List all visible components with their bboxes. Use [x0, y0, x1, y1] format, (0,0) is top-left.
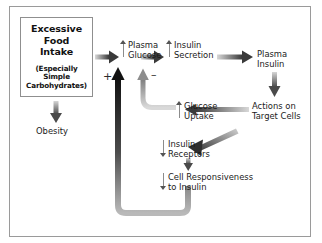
- intake-title-line2: Food: [44, 35, 70, 47]
- figure-canvas: Excessive Food Intake (Especially Simple…: [0, 0, 322, 243]
- node-glucose-uptake: Glucose Uptake: [176, 101, 217, 121]
- insulin-receptors-line2: Receptors: [168, 149, 210, 159]
- insulin-receptors-line1: Insulin: [168, 139, 210, 149]
- actions-line1: Actions on: [252, 101, 301, 111]
- down-arrow-icon: [160, 172, 167, 190]
- plasma-insulin-line2: Insulin: [257, 59, 287, 69]
- node-plasma-glucose-text: Plasma Glucose: [128, 40, 161, 60]
- node-plasma-glucose: Plasma Glucose: [120, 40, 161, 60]
- node-insulin-secretion: Insulin Secretion: [166, 40, 214, 60]
- edge-insulin-receptors-to-cell-responsiveness: [184, 158, 194, 171]
- plasma-glucose-line1: Plasma: [128, 40, 161, 50]
- insulin-secretion-line2: Secretion: [174, 50, 214, 60]
- cell-responsiveness-line2: to Insulin: [168, 182, 253, 192]
- up-arrow-icon: [120, 40, 127, 58]
- node-actions-on-target-cells: Actions on Target Cells: [252, 101, 301, 121]
- node-insulin-secretion-text: Insulin Secretion: [174, 40, 214, 60]
- node-insulin-receptors-text: Insulin Receptors: [168, 139, 210, 159]
- down-arrow-icon: [160, 139, 167, 157]
- up-arrow-icon: [166, 40, 173, 58]
- node-plasma-insulin: Plasma Insulin: [257, 49, 287, 69]
- actions-line2: Target Cells: [252, 111, 301, 121]
- edge-intake-to-plasma-glucose: [95, 51, 119, 64]
- node-glucose-uptake-text: Glucose Uptake: [184, 101, 217, 121]
- glucose-uptake-line2: Uptake: [184, 111, 217, 121]
- edge-glucose-uptake-to-plasma-glucose: [137, 69, 176, 108]
- glucose-uptake-line1: Glucose: [184, 101, 217, 111]
- node-cell-responsiveness-to-insulin: Cell Responsiveness to Insulin: [160, 172, 253, 192]
- intake-title-line1: Excessive: [31, 23, 82, 35]
- insulin-secretion-line1: Insulin: [174, 40, 214, 50]
- minus-sign: –: [151, 69, 157, 80]
- node-insulin-receptors: Insulin Receptors: [160, 139, 210, 159]
- edge-insulin-secretion-to-plasma-insulin: [217, 51, 253, 64]
- plasma-glucose-line2: Glucose: [128, 50, 161, 60]
- plus-sign: +: [103, 71, 112, 82]
- edge-plasma-insulin-to-actions: [269, 72, 281, 97]
- node-cell-responsiveness-text: Cell Responsiveness to Insulin: [168, 172, 253, 192]
- node-obesity-label: Obesity: [36, 126, 68, 136]
- up-arrow-icon: [176, 101, 183, 119]
- intake-title-line3: Intake: [40, 46, 73, 58]
- intake-subtitle-line3: Carbohydrates): [26, 82, 87, 91]
- node-obesity: Obesity: [36, 126, 68, 136]
- plasma-insulin-line1: Plasma: [257, 49, 287, 59]
- edge-intake-to-obesity: [50, 101, 62, 123]
- cell-responsiveness-line1: Cell Responsiveness: [168, 172, 253, 182]
- excessive-food-intake-box: Excessive Food Intake (Especially Simple…: [20, 17, 93, 97]
